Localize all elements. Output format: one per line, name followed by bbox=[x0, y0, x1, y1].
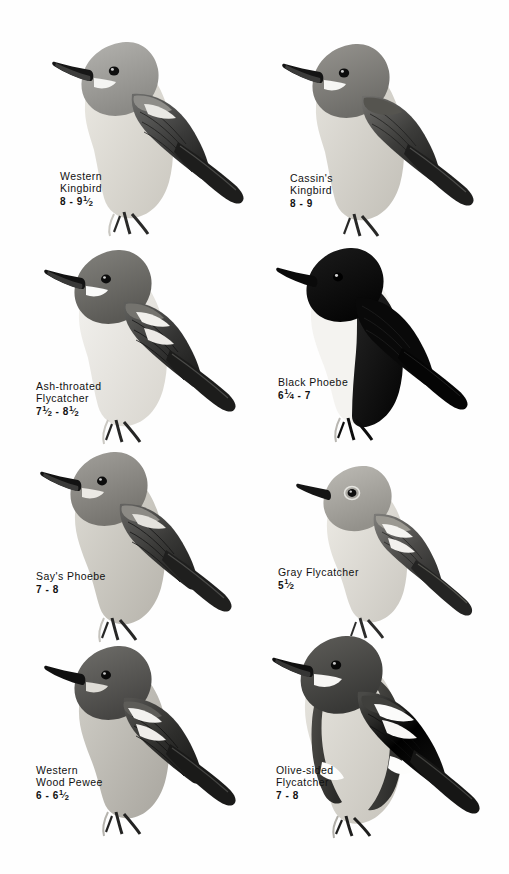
species-name-line1: Ash-throated bbox=[36, 380, 102, 392]
species-name-line2: Kingbird bbox=[290, 184, 333, 196]
species-label-black-phoebe: Black Phoebe 61⁄4 - 7 bbox=[278, 376, 348, 403]
species-label-western-kingbird: Western Kingbird 8 - 91⁄2 bbox=[60, 170, 102, 210]
species-name-line1: Black Phoebe bbox=[278, 376, 348, 388]
species-size: 61⁄4 - 7 bbox=[278, 390, 348, 403]
bird-illustration-says-phoebe bbox=[28, 428, 282, 638]
species-cell-olive-sided-flycatcher: Olive-sided Flycatcher 7 - 8 bbox=[262, 612, 509, 822]
species-name-line1: Western bbox=[36, 764, 103, 776]
species-cell-cassins-kingbird: Cassin's Kingbird 8 - 9 bbox=[262, 18, 509, 228]
species-name-line1: Cassin's bbox=[290, 172, 333, 184]
species-name-line1: Say's Phoebe bbox=[36, 570, 106, 582]
species-name-line2: Wood Pewee bbox=[36, 776, 103, 788]
species-size: 6 - 61⁄2 bbox=[36, 790, 103, 803]
species-name-line1: Western bbox=[60, 170, 102, 182]
bird-illustration-black-phoebe bbox=[262, 228, 509, 438]
species-size: 7 - 8 bbox=[36, 584, 106, 596]
species-cell-western-wood-pewee: Western Wood Pewee 6 - 61⁄2 bbox=[28, 622, 282, 832]
field-guide-plate: Western Kingbird 8 - 91⁄2 bbox=[0, 0, 509, 874]
species-cell-western-kingbird: Western Kingbird 8 - 91⁄2 bbox=[28, 18, 282, 228]
species-cell-gray-flycatcher: Gray Flycatcher 51⁄2 bbox=[262, 428, 509, 638]
species-label-ash-throated-flycatcher: Ash-throated Flycatcher 71⁄2 - 81⁄2 bbox=[36, 380, 102, 420]
species-label-olive-sided-flycatcher: Olive-sided Flycatcher 7 - 8 bbox=[276, 764, 333, 803]
species-name-line1: Olive-sided bbox=[276, 764, 333, 776]
species-name-line2: Kingbird bbox=[60, 182, 102, 194]
species-name-line2: Flycatcher bbox=[276, 776, 333, 788]
species-size: 8 - 91⁄2 bbox=[60, 196, 102, 209]
species-name-line1: Gray Flycatcher bbox=[278, 566, 359, 578]
species-cell-says-phoebe: Say's Phoebe 7 - 8 bbox=[28, 428, 282, 638]
species-size: 51⁄2 bbox=[278, 580, 359, 593]
species-size: 7 - 8 bbox=[276, 790, 333, 802]
species-name-line2: Flycatcher bbox=[36, 392, 102, 404]
species-label-cassins-kingbird: Cassin's Kingbird 8 - 9 bbox=[290, 172, 333, 211]
species-label-gray-flycatcher: Gray Flycatcher 51⁄2 bbox=[278, 566, 359, 593]
species-cell-ash-throated-flycatcher: Ash-throated Flycatcher 71⁄2 - 81⁄2 bbox=[28, 228, 282, 438]
species-size: 71⁄2 - 81⁄2 bbox=[36, 406, 102, 419]
species-size: 8 - 9 bbox=[290, 198, 333, 210]
species-label-western-wood-pewee: Western Wood Pewee 6 - 61⁄2 bbox=[36, 764, 103, 804]
species-label-says-phoebe: Say's Phoebe 7 - 8 bbox=[36, 570, 106, 596]
species-cell-black-phoebe: Black Phoebe 61⁄4 - 7 bbox=[262, 228, 509, 438]
bird-illustration-gray-flycatcher bbox=[262, 428, 509, 638]
